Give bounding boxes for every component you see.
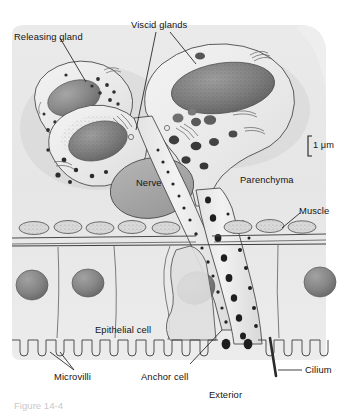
label-muscle: Muscle	[299, 206, 329, 215]
figure-root: Releasing gland Viscid glands Nerve Pare…	[0, 0, 360, 413]
label-epithelial-cell: Epithelial cell	[95, 325, 151, 334]
label-releasing-gland: Releasing gland	[14, 32, 83, 41]
label-microvilli: Microvilli	[54, 372, 91, 381]
label-scale-bar: 1 μm	[313, 141, 334, 150]
label-viscid-glands: Viscid glands	[131, 20, 187, 29]
figure-caption: Figure 14-4	[14, 400, 63, 411]
label-exterior: Exterior	[209, 390, 242, 399]
label-parenchyma: Parenchyma	[240, 175, 294, 184]
label-anchor-cell: Anchor cell	[141, 372, 188, 381]
label-nerve: Nerve	[136, 178, 162, 187]
label-cilium: Cilium	[305, 365, 332, 374]
